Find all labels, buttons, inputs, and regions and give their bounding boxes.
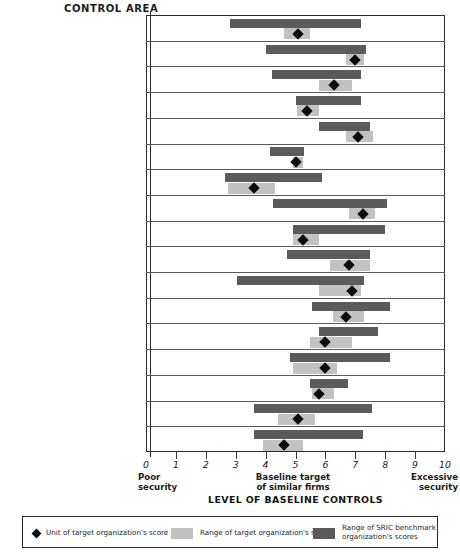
axis-tick-label: 10 [437, 459, 453, 470]
row-separator [146, 41, 445, 42]
diamond-marker-icon [32, 528, 42, 538]
sric-range-bar [319, 122, 370, 131]
axis-tick-label: 5 [288, 459, 304, 470]
sric-range-bar [266, 45, 366, 54]
row-separator [146, 323, 445, 324]
row-separator [146, 66, 445, 67]
axis-tick [296, 452, 297, 459]
row-separator [146, 349, 445, 350]
legend: Unit of target organization's score Rang… [22, 516, 438, 548]
sric-range-bar [270, 147, 304, 156]
sric-range-bar [287, 250, 371, 259]
axis-tick [355, 452, 356, 459]
sric-range-bar [225, 173, 322, 182]
sric-range-bar [272, 70, 362, 79]
row-separator [146, 92, 445, 93]
row-separator [146, 221, 445, 222]
chart-sheet: CONTROL AREA Policies and awarenessOrgan… [0, 0, 460, 559]
axis-tick-label: 0 [138, 459, 154, 470]
axis-tick-label: 2 [198, 459, 214, 470]
dark-swatch-icon [313, 528, 335, 539]
axis-tick-label: 9 [407, 459, 423, 470]
sric-range-bar [293, 225, 386, 234]
row-separator [146, 375, 445, 376]
legend-item-unit: Unit of target organization's score [33, 517, 168, 549]
axis-tick [236, 452, 237, 459]
axis-tick-label: 1 [168, 459, 184, 470]
axis-tick-label: 7 [347, 459, 363, 470]
sric-range-bar [273, 199, 387, 208]
sric-range-bar [230, 19, 362, 28]
target-range-bar [310, 337, 352, 348]
sric-range-bar [312, 302, 390, 311]
row-separator [146, 118, 445, 119]
page-title: CONTROL AREA [64, 3, 158, 14]
axis-note-baseline: Baseline target of similar firms [232, 472, 354, 492]
row-separator [146, 272, 445, 273]
sric-range-bar [290, 353, 390, 362]
legend-item-sric-range: Range of SRIC benchmark organization's s… [313, 517, 436, 549]
axis-title: LEVEL OF BASELINE CONTROLS [146, 494, 445, 505]
axis-tick [415, 452, 416, 459]
row-separator [146, 195, 445, 196]
sric-range-bar [310, 379, 347, 388]
axis-tick-marks [146, 452, 445, 459]
sric-range-bar [254, 404, 372, 413]
row-separator [146, 246, 445, 247]
axis-tick [325, 452, 326, 459]
sric-range-bar [237, 276, 364, 285]
axis-tick [176, 452, 177, 459]
legend-label-sric-range: Range of SRIC benchmark organization's s… [342, 524, 436, 541]
baseline-reference-line [150, 12, 151, 457]
sric-range-bar [319, 327, 377, 336]
sric-range-bar [254, 430, 363, 439]
axis-tick-label: 3 [228, 459, 244, 470]
axis-tick-label: 6 [317, 459, 333, 470]
legend-label-unit: Unit of target organization's score [46, 529, 168, 538]
axis-tick-label: 4 [258, 459, 274, 470]
axis-note-excessive: Excessive security [388, 472, 458, 492]
axis-note-poor: Poor security [138, 472, 190, 492]
row-separator [146, 144, 445, 145]
legend-item-target-range: Range of target organization's scores [171, 517, 334, 549]
row-separator [146, 401, 445, 402]
row-separator [146, 298, 445, 299]
sric-range-bar [296, 96, 362, 105]
axis-tick [206, 452, 207, 459]
axis-tick-label: 8 [377, 459, 393, 470]
axis-tick [266, 452, 267, 459]
row-separator [146, 426, 445, 427]
row-separator [146, 169, 445, 170]
light-swatch-icon [171, 528, 193, 539]
axis-tick [385, 452, 386, 459]
